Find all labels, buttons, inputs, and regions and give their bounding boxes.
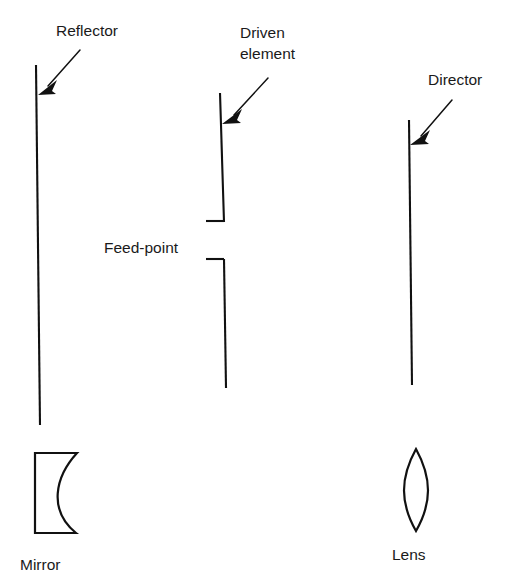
director-arrow [410,100,452,145]
reflector-group: Reflector [36,22,118,425]
director-element-line [409,120,412,385]
director-arrow-tail [421,100,452,136]
driven-element-upper-line [220,93,224,222]
director-group: Director [409,71,482,385]
director-arrow-head [410,130,430,145]
lens-label: Lens [392,546,426,563]
driven-element-arrow-tail [234,78,268,115]
driven-element-arrow-head [222,109,242,124]
lens-group: Lens [392,449,428,563]
feed-point-label: Feed-point [104,239,179,256]
mirror-shape [35,453,77,533]
reflector-label: Reflector [56,22,118,39]
diagram-canvas: Reflector Driven element Feed-point [0,0,527,578]
driven-element-arrow [222,78,268,124]
director-label: Director [428,71,482,88]
driven-element-lower-line [224,259,226,388]
lens-shape [404,449,428,531]
driven-element-label-line2: element [240,45,296,62]
mirror-group: Mirror [20,453,77,573]
antenna-diagram: Reflector Driven element Feed-point [0,0,527,578]
reflector-arrow-tail [48,50,80,86]
reflector-arrow-head [38,80,57,95]
reflector-element-line [36,65,40,425]
reflector-arrow [38,50,80,95]
driven-element-group: Driven element Feed-point [104,24,296,388]
driven-element-label-line1: Driven [240,24,285,41]
mirror-label: Mirror [20,556,60,573]
